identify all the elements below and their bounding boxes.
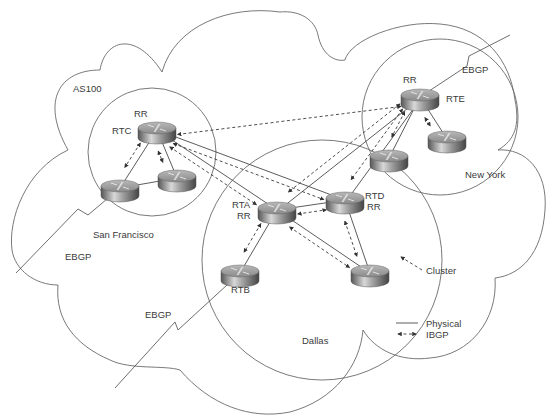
legend-ibgp-label: IBGP	[426, 329, 449, 340]
router-label-ny-rr: RR	[403, 74, 417, 85]
router-label-rtb: RTB	[231, 284, 250, 295]
router-sf-rr[interactable]	[138, 122, 176, 144]
cluster-pointer-label: Cluster	[426, 265, 456, 276]
router-label-rtc: RTC	[112, 125, 131, 136]
ibgp-session-rta-dal_c	[290, 227, 350, 268]
router-sf-c1[interactable]	[101, 180, 139, 202]
bgp-route-reflector-diagram: AS100 RR RTC RTA RR RTD RR RTB RR RTE Sa…	[0, 0, 558, 420]
router-dal-c[interactable]	[351, 265, 389, 287]
ibgp-session-rtd-dal_c	[345, 221, 357, 256]
router-rtd[interactable]	[326, 192, 364, 214]
cluster-label-new-york: New York	[465, 169, 505, 180]
ebgp-label-dallas: EBGP	[145, 309, 171, 320]
router-label-rta-rr: RR	[237, 210, 251, 221]
ebgp-label-ny: EBGP	[462, 64, 488, 75]
ibgp-session-sf_rr-ny_rr	[178, 106, 401, 134]
router-ny-rr[interactable]	[401, 89, 439, 111]
router-label-rtd: RTD	[365, 190, 384, 201]
ibgp-session-sf_rr-sf_c1	[125, 143, 140, 167]
ebgp-label-sf: EBGP	[65, 251, 91, 262]
ibgp-session-rta-rtd	[298, 210, 326, 214]
router-label-rtd-rr: RR	[367, 201, 381, 212]
router-label-sf-rr: RR	[134, 108, 148, 119]
legend-physical-label: Physical	[426, 318, 461, 329]
physical-link-ny_rr-rtd	[347, 97, 422, 200]
ibgp-session-ny_rr-rta	[288, 104, 400, 192]
router-ny-c2[interactable]	[428, 131, 466, 153]
as-label: AS100	[73, 83, 102, 94]
ibgp-session-ny_rr-ny_c2	[425, 118, 430, 126]
cluster-label-san-francisco: San Francisco	[93, 229, 154, 240]
router-label-rte: RTE	[446, 93, 465, 104]
router-sf-c2[interactable]	[158, 170, 196, 192]
router-ny-c1[interactable]	[370, 150, 408, 172]
ibgp-session-rta-rtb	[244, 224, 261, 253]
cluster-pointer-arrow	[401, 257, 422, 270]
ibgp-session-sf_rr-sf_c2	[158, 151, 163, 162]
cluster-label-dallas: Dallas	[302, 335, 329, 346]
router-label-rta: RTA	[232, 199, 251, 210]
ebgp-link-rtb	[115, 273, 240, 388]
legend: Physical IBGP	[396, 318, 461, 340]
router-rta[interactable]	[258, 202, 296, 224]
